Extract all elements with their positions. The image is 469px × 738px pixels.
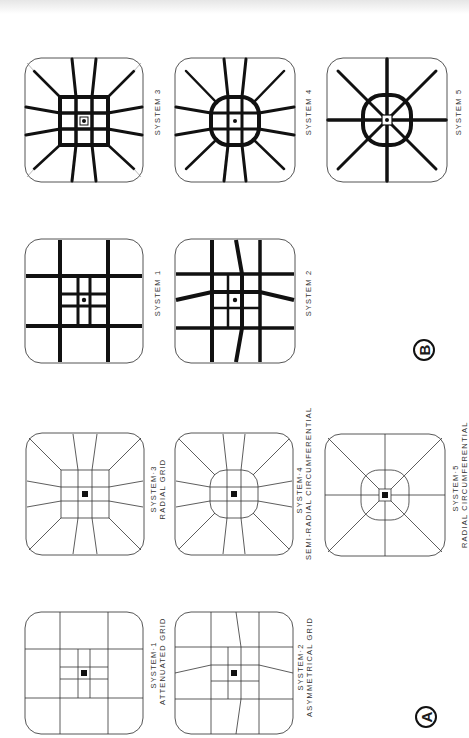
panel-label: SYSTEM 5 <box>454 82 463 142</box>
a-system-2-label: SYSTEM·2 ASYMMETRICAL GRID <box>296 617 314 717</box>
b-system-3-label: SYSTEM 3 <box>153 82 162 142</box>
b-system-1-label: SYSTEM 1 <box>153 263 162 323</box>
a-system-4-label: SYSTEM·4 SEMI-RADIAL CIRCUMFERENTIAL <box>295 420 313 560</box>
marker-letter: A <box>418 712 435 723</box>
b-system-3-diagram <box>24 57 144 183</box>
b-system-2-label: SYSTEM 2 <box>304 263 313 323</box>
panel-label: SYSTEM·1 <box>149 625 158 705</box>
a-system-3-label: SYSTEM·3 RADIAL GRID <box>149 454 167 524</box>
b-system-2-diagram <box>174 238 296 364</box>
scan-edge-shade <box>0 0 469 14</box>
section-b-marker: B <box>413 339 435 361</box>
a-system-4-diagram <box>174 432 294 556</box>
panel-label: SYSTEM 1 <box>153 263 162 323</box>
b-system-1-diagram <box>24 238 144 364</box>
panel-label: SYSTEM·3 <box>149 454 158 524</box>
b-system-5-diagram <box>326 57 448 183</box>
panel-sublabel: RADIAL GRID <box>158 454 167 524</box>
panel-sublabel: ATTENUATED GRID <box>158 625 167 705</box>
panel-label: SYSTEM 2 <box>304 263 313 323</box>
a-system-5-label: SYSTEM·5 RADIAL CIRCUMFERENTIAL <box>451 428 469 548</box>
panel-label: SYSTEM·4 <box>295 420 304 560</box>
a-system-1-label: SYSTEM·1 ATTENUATED GRID <box>149 625 167 705</box>
panel-sublabel: RADIAL CIRCUMFERENTIAL <box>460 428 469 548</box>
panel-sublabel: ASYMMETRICAL GRID <box>305 617 314 717</box>
b-system-5-label: SYSTEM 5 <box>454 82 463 142</box>
marker-letter: B <box>416 345 433 356</box>
a-system-1-diagram <box>24 611 144 735</box>
b-system-4-diagram <box>174 57 296 183</box>
panel-label: SYSTEM 3 <box>153 82 162 142</box>
a-system-5-diagram <box>324 433 446 557</box>
panel-label: SYSTEM 4 <box>304 82 313 142</box>
panel-label: SYSTEM·2 <box>296 617 305 717</box>
panel-sublabel: SEMI-RADIAL CIRCUMFERENTIAL <box>304 420 313 560</box>
b-system-4-label: SYSTEM 4 <box>304 82 313 142</box>
panel-label: SYSTEM·5 <box>451 428 460 548</box>
section-a-marker: A <box>415 706 437 728</box>
a-system-2-diagram <box>174 611 294 735</box>
a-system-3-diagram <box>25 432 145 556</box>
